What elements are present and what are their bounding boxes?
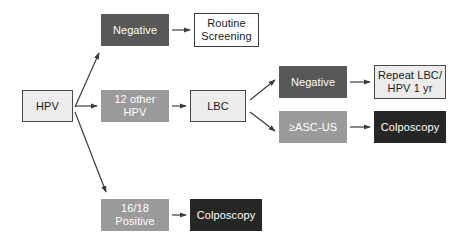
node-twelve-other-hpv[interactable]: 12 other HPV (101, 90, 169, 122)
node-label-negative-top: Negative (113, 24, 157, 37)
node-label-colposcopy-asc: Colposcopy (381, 121, 439, 134)
node-colposcopy-1618[interactable]: Colposcopy (190, 199, 262, 231)
node-sixteen-eighteen-positive[interactable]: 16/18 Positive (101, 199, 169, 231)
node-colposcopy-asc[interactable]: Colposcopy (374, 111, 446, 143)
node-routine-screening[interactable]: Routine Screening (194, 13, 259, 47)
node-negative-top[interactable]: Negative (101, 14, 169, 46)
arrow-lbc-to-asc-us (250, 112, 275, 131)
arrow-lbc-to-negative (250, 80, 275, 100)
flowchart-canvas: HPVNegativeRoutine Screening12 other HPV… (0, 0, 464, 245)
node-label-repeat-lbc-hpv: Repeat LBC/ HPV 1 yr (378, 69, 442, 95)
arrow-hpv-to-negative-top (75, 53, 99, 107)
node-label-routine-screening: Routine Screening (201, 17, 251, 43)
node-asc-us[interactable]: ≥ASC-US (279, 111, 347, 143)
node-label-negative-lbc: Negative (291, 76, 335, 89)
node-negative-lbc[interactable]: Negative (279, 66, 347, 98)
node-label-lbc: LBC (207, 100, 229, 113)
node-repeat-lbc-hpv[interactable]: Repeat LBC/ HPV 1 yr (374, 65, 446, 99)
node-label-colposcopy-1618: Colposcopy (197, 209, 255, 222)
arrow-hpv-to-1618 (75, 112, 106, 192)
node-lbc[interactable]: LBC (190, 90, 246, 122)
node-label-asc-us: ≥ASC-US (289, 121, 337, 134)
node-label-sixteen-eighteen-positive: 16/18 Positive (115, 202, 154, 228)
node-label-hpv: HPV (36, 100, 59, 113)
node-label-twelve-other-hpv: 12 other HPV (114, 93, 155, 119)
node-hpv[interactable]: HPV (22, 90, 73, 122)
